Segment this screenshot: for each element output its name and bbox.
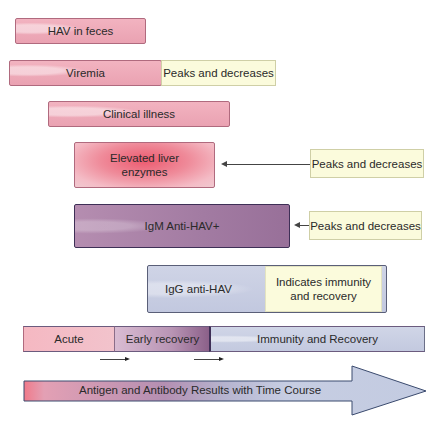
timeline-arrow-icon [0,0,448,434]
timeline-label: Antigen and Antibody Results with Time C… [79,384,321,396]
